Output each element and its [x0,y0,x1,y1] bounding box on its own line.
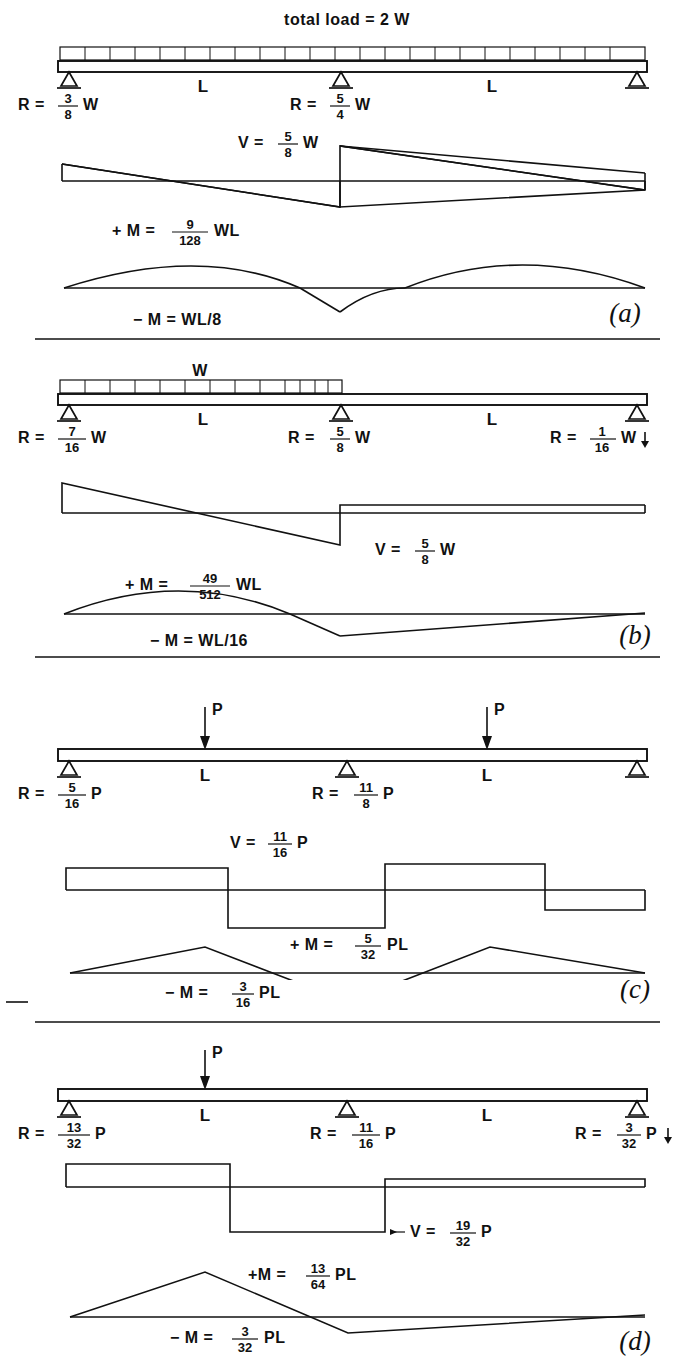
panel-letter-b: (b) [619,620,650,650]
support-center-a [329,72,353,88]
reaction-unit: P [91,785,102,802]
point-load-d-1: P [200,1044,223,1090]
shear-label-b: V = 5 8 W [375,536,456,567]
shear-prefix: V = [230,834,256,851]
reaction-prefix: R = [290,96,317,113]
support-left-c [57,761,81,777]
panel-letter-a: (a) [609,298,640,328]
figure-sheet: total load = 2 W [0,0,695,1363]
moment-pos-unit: WL [236,576,262,593]
reaction-numerator: 11 [359,1120,373,1135]
shear-prefix: V = [238,134,264,151]
reaction-prefix: R = [310,1125,337,1142]
span-label-d-2: L [482,1106,492,1125]
moment-neg-label-b: − M = WL/16 [150,632,248,649]
panel-b: W [0,340,695,660]
support-right-c [625,761,649,777]
moment-diagram-b [64,591,645,636]
reaction-numerator: 5 [336,424,343,439]
moment-diagram-a [64,265,645,312]
shear-prefix: V = [375,541,401,558]
span-label-a-1: L [198,77,208,96]
moment-pos-numerator: 13 [311,1261,325,1276]
moment-neg-numerator: 3 [239,980,246,994]
load-caption-b: W [192,362,208,379]
shear-numerator: 11 [273,829,287,844]
panel-letter-c: (c) [620,980,650,1004]
span-label-b-1: L [198,410,208,429]
reaction-label-d-1: R = 13 32 P [18,1120,106,1151]
span-label-b-2: L [487,410,497,429]
shear-label-a: V = 5 8 W [238,129,319,160]
moment-pos-label-a: + M = 9 128 WL [112,217,240,248]
span-label-a-2: L [487,77,497,96]
reaction-numerator: 1 [598,424,605,439]
shear-numerator: 5 [421,536,428,551]
moment-neg-numerator: 3 [241,1324,248,1339]
reaction-label-b-2: R = 5 8 W [288,424,371,455]
distributed-load-a [60,47,645,60]
reaction-label-a-2: R = 5 4 W [290,91,371,122]
reaction-denominator: 16 [65,796,79,811]
reaction-numerator: 3 [625,1120,632,1135]
reaction-label-c-2: R = 11 8 P [312,780,394,811]
beam-a [58,61,647,72]
shear-denominator: 32 [456,1234,470,1249]
reaction-label-c-1: R = 5 16 P [18,780,102,811]
shear-diagram-b [62,483,645,545]
moment-pos-label-c: + M = 5 32 PL [290,931,408,962]
reaction-prefix: R = [575,1125,602,1142]
load-caption-a: total load = 2 W [284,11,410,28]
reaction-denominator: 32 [67,1136,81,1151]
shear-unit: P [481,1223,492,1240]
panel-a: total load = 2 W [0,0,695,340]
reaction-prefix: R = [312,785,339,802]
shear-numerator: 19 [456,1218,470,1233]
panel-b-svg: W [0,340,695,660]
moment-pos-prefix: + M = [290,936,333,953]
moment-pos-label-b: + M = 49 512 WL [125,571,262,602]
reaction-denominator: 16 [595,440,609,455]
moment-pos-prefix: +M = [248,1266,286,1283]
shear-numerator: 5 [284,129,291,144]
support-center-c [335,761,359,777]
reaction-numerator: 7 [68,424,75,439]
moment-neg-label-a: − M = WL/8 [133,311,222,328]
panel-c: P P L L R = [0,660,695,980]
shear-unit: W [303,134,319,151]
moment-neg-label-d: − M = 3 32 PL [170,1324,285,1355]
shear-diagram-a [62,146,645,207]
reaction-label-b-3: R = 1 16 W [550,424,649,455]
moment-pos-prefix: + M = [112,222,155,239]
point-load-label: P [212,701,223,718]
support-right-d [625,1101,649,1117]
reaction-denominator: 8 [362,796,369,811]
panel-a-svg: total load = 2 W [0,0,695,340]
point-load-c-1: P [200,701,223,750]
point-load-c-2: P [482,701,505,750]
shear-callout-d [390,1229,405,1235]
moment-neg-unit: PL [264,1329,285,1346]
shear-label-c: V = 11 16 P [230,829,308,860]
moment-pos-unit: PL [387,936,408,953]
moment-pos-denominator: 128 [179,233,201,248]
panel-letter-d: (d) [619,1326,650,1356]
shear-label-d: V = 19 32 P [410,1218,492,1249]
reaction-unit: P [95,1125,106,1142]
reaction-denominator: 16 [359,1136,373,1151]
reaction-denominator: 4 [336,107,344,122]
beam-c [58,749,647,761]
reaction-numerator: 5 [336,91,343,106]
span-label-c-2: L [482,766,492,785]
reaction-prefix: R = [18,96,45,113]
point-load-label: P [212,1044,223,1061]
reaction-prefix: R = [18,1125,45,1142]
moment-neg-denominator: 16 [236,995,250,1010]
reaction-label-b-1: R = 7 16 W [18,424,107,455]
support-center-b [329,405,353,421]
reaction-unit: W [91,429,107,446]
reaction-denominator: 8 [336,440,343,455]
support-right-a [625,72,649,88]
moment-neg-prefix: − M = [165,984,208,1001]
reaction-numerator: 13 [67,1120,81,1135]
